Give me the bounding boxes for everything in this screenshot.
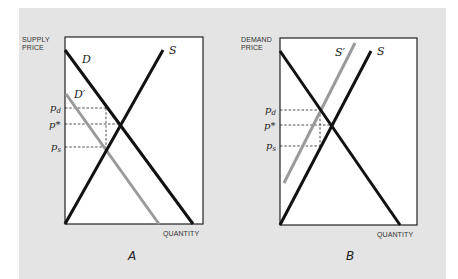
label-s-prime-b: S′ bbox=[335, 46, 346, 59]
panel-a: SUPPLY PRICE QUANTITY D D′ S pd p* ps A bbox=[22, 36, 203, 263]
label-d-a: D bbox=[81, 53, 91, 66]
y-axis-title-b-line2: PRICE bbox=[241, 44, 263, 51]
price-label-ps-a: ps bbox=[51, 141, 61, 154]
price-label-ps-b: ps bbox=[266, 140, 276, 153]
price-label-pd-b: pd bbox=[265, 104, 276, 117]
price-label-pstar-b: p* bbox=[264, 120, 275, 131]
label-s-b: S bbox=[377, 45, 385, 58]
y-axis-title-b-line1: DEMAND bbox=[241, 36, 272, 43]
price-label-pd-a: pd bbox=[50, 102, 61, 115]
plot-area-b bbox=[280, 38, 417, 225]
tax-incidence-diagram: SUPPLY PRICE QUANTITY D D′ S pd p* ps A … bbox=[0, 0, 458, 279]
label-d-prime-a: D′ bbox=[73, 88, 86, 101]
y-axis-title-a-line2: PRICE bbox=[22, 44, 44, 51]
panel-label-a: A bbox=[127, 249, 136, 263]
y-axis-title-a-line1: SUPPLY bbox=[22, 36, 50, 43]
label-s-a: S bbox=[169, 44, 177, 57]
price-label-pstar-a: p* bbox=[49, 119, 60, 130]
x-axis-title-b: QUANTITY bbox=[377, 231, 413, 239]
x-axis-title-a: QUANTITY bbox=[163, 230, 199, 238]
panel-b: DEMAND PRICE QUANTITY S′ S pd p* ps B bbox=[241, 36, 417, 263]
panel-label-b: B bbox=[346, 249, 354, 263]
